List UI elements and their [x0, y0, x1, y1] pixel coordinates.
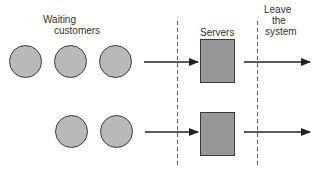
arrows-and-boundaries: [0, 0, 312, 172]
boundary-lines: [178, 21, 258, 168]
queue-diagram: Waiting customers Servers Leave the syst…: [0, 0, 312, 172]
